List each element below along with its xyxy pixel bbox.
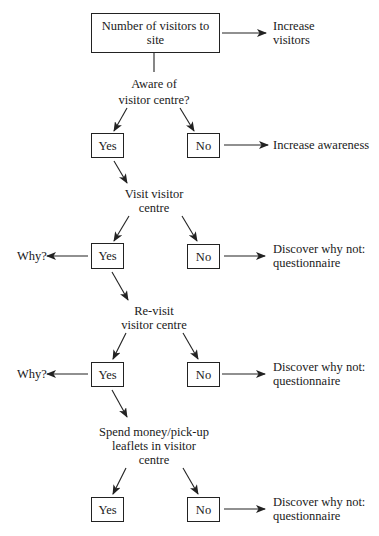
decision-2-line-2: centre [104, 201, 204, 215]
decision-4-line-1: Spend money/pick-up [94, 425, 214, 439]
outcome-why-revisit: Why? [17, 367, 47, 381]
outcome-line-1: Increase awareness [273, 138, 369, 152]
decision-1-line-1: Aware of [104, 77, 204, 91]
decision-3-line-1: Re-visit [104, 304, 204, 318]
outcome-discover-why-not-revisit: Discover why not: questionnaire [273, 360, 365, 388]
outcome-line-2: visitors [273, 33, 315, 47]
decision-4-no-box: No [187, 497, 220, 522]
decision-2-no-box: No [187, 244, 220, 269]
outcome-line-2: questionnaire [273, 374, 365, 388]
no-label: No [196, 139, 211, 153]
decision-3-line-2: visitor centre [104, 318, 204, 332]
outcome-line-2: questionnaire [273, 256, 365, 270]
start-node-line-2: site [147, 33, 164, 47]
yes-label: Yes [98, 249, 116, 263]
decision-1-line-2: visitor centre? [104, 93, 204, 107]
decision-4-yes-box: Yes [91, 497, 124, 522]
decision-4-line-2: leaflets in visitor [94, 439, 214, 453]
no-label: No [196, 503, 211, 517]
yes-label: Yes [98, 503, 116, 517]
decision-spend-money: Spend money/pick-up leaflets in visitor … [94, 425, 214, 467]
outcome-increase-visitors: Increase visitors [273, 19, 315, 47]
decision-1-no-box: No [187, 133, 220, 158]
decision-revisit-visitor-centre: Re-visit visitor centre [104, 304, 204, 332]
decision-1-yes-box: Yes [91, 133, 124, 158]
decision-4-line-3: centre [94, 453, 214, 467]
start-node-visitors-to-site: Number of visitors to site [91, 13, 220, 53]
decision-2-yes-box: Yes [91, 243, 124, 269]
decision-3-no-box: No [187, 362, 220, 387]
why-label: Why? [17, 367, 47, 381]
no-label: No [196, 250, 211, 264]
outcome-why-visit: Why? [17, 249, 47, 263]
outcome-line-1: Discover why not: [273, 495, 365, 509]
why-label: Why? [17, 249, 47, 263]
outcome-discover-why-not-visit: Discover why not: questionnaire [273, 242, 365, 270]
outcome-line-1: Discover why not: [273, 360, 365, 374]
outcome-line-1: Discover why not: [273, 242, 365, 256]
outcome-discover-why-not-spend: Discover why not: questionnaire [273, 495, 365, 523]
outcome-line-1: Increase [273, 19, 315, 33]
no-label: No [196, 368, 211, 382]
yes-label: Yes [98, 139, 116, 153]
visitor-centre-flowchart: Number of visitors to site Increase visi… [0, 0, 379, 536]
outcome-increase-awareness: Increase awareness [273, 138, 369, 152]
decision-3-yes-box: Yes [91, 362, 124, 387]
decision-2-line-1: Visit visitor [104, 187, 204, 201]
decision-visit-visitor-centre: Visit visitor centre [104, 187, 204, 215]
outcome-line-2: questionnaire [273, 509, 365, 523]
yes-label: Yes [98, 368, 116, 382]
start-node-line-1: Number of visitors to [102, 19, 209, 33]
decision-aware-of-visitor-centre: Aware of visitor centre? [104, 77, 204, 107]
